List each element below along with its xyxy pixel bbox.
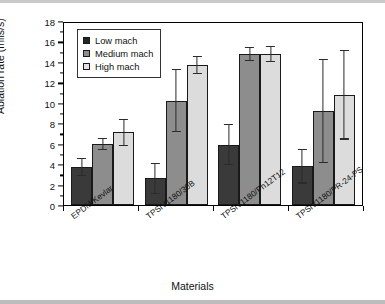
bar-slot	[239, 23, 260, 205]
error-cap-bottom	[319, 162, 328, 163]
page-top-edge	[0, 0, 385, 3]
x-axis-tick	[63, 206, 64, 211]
x-axis-tick	[288, 206, 289, 211]
error-cap-bottom	[224, 164, 233, 165]
error-cap-top	[172, 69, 181, 70]
bar-1-2[interactable]	[239, 54, 260, 205]
error-cap-bottom	[77, 175, 86, 176]
legend-label: Low mach	[95, 36, 137, 46]
bar-slot	[313, 23, 334, 205]
y-axis-tick-label: 16	[44, 37, 55, 48]
y-axis-tick-label: 0	[50, 201, 55, 212]
error-cap-top	[224, 124, 233, 125]
error-cap-bottom	[245, 60, 254, 61]
error-cap-top	[266, 46, 275, 47]
y-axis-tick-label: 4	[50, 160, 55, 171]
error-cap-top	[98, 138, 107, 139]
x-axis-tick	[138, 206, 139, 211]
error-cap-top	[151, 163, 160, 164]
error-cap-top	[340, 50, 349, 51]
y-axis-tick-label: 12	[44, 78, 55, 89]
x-axis-tick	[213, 206, 214, 211]
legend-swatch-icon	[83, 37, 90, 44]
page-bottom-edge	[0, 300, 385, 304]
error-bar	[155, 163, 156, 194]
error-bar	[323, 59, 324, 163]
error-cap-top	[193, 56, 202, 57]
error-bar	[81, 158, 82, 176]
y-axis-tick-label: 10	[44, 98, 55, 109]
y-axis-tick-label: 6	[50, 139, 55, 150]
error-bar	[228, 124, 229, 165]
error-cap-bottom	[172, 131, 181, 132]
x-axis-tick	[363, 206, 364, 211]
error-cap-top	[245, 47, 254, 48]
error-cap-bottom	[266, 61, 275, 62]
y-axis-tick-label: 14	[44, 57, 55, 68]
error-bar	[249, 47, 250, 61]
error-cap-bottom	[119, 145, 128, 146]
error-cap-bottom	[151, 193, 160, 194]
legend-item-2[interactable]: High mach	[83, 60, 153, 73]
error-bar	[302, 149, 303, 184]
bar-slot	[166, 23, 187, 205]
legend-item-0[interactable]: Low mach	[83, 34, 153, 47]
y-axis-tick-label: 18	[44, 17, 55, 28]
error-cap-top	[77, 158, 86, 159]
error-bar	[344, 50, 345, 140]
legend-swatch-icon	[83, 63, 90, 70]
error-bar	[197, 56, 198, 74]
error-cap-bottom	[98, 149, 107, 150]
y-axis-tick-label: 8	[50, 119, 55, 130]
legend-swatch-icon	[83, 50, 90, 57]
error-bar	[123, 119, 124, 146]
error-cap-bottom	[298, 182, 307, 183]
bar-slot	[292, 23, 313, 205]
y-axis-title: Ablation rate (mils/s)	[0, 18, 6, 114]
error-cap-top	[298, 149, 307, 150]
legend: Low machMedium machHigh mach	[77, 29, 161, 78]
legend-label: High mach	[95, 62, 139, 72]
error-bar	[176, 69, 177, 132]
error-cap-bottom	[193, 73, 202, 74]
bar-slot	[218, 23, 239, 205]
error-bar	[270, 46, 271, 62]
y-axis-tick-label: 2	[50, 180, 55, 191]
error-cap-top	[119, 119, 128, 120]
x-axis-title: Materials	[0, 280, 385, 292]
ablation-rate-bar-chart: Ablation rate (mils/s) 024681012141618 L…	[0, 0, 385, 304]
error-cap-top	[319, 59, 328, 60]
legend-label: Medium mach	[95, 49, 153, 59]
error-cap-bottom	[340, 138, 349, 139]
legend-item-1[interactable]: Medium mach	[83, 47, 153, 60]
error-bar	[102, 138, 103, 150]
